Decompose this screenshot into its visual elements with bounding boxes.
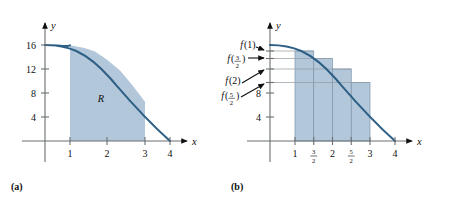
callout-f-2: f (2): [225, 70, 264, 87]
x-tick-label: 1: [68, 148, 73, 159]
riemann-rect: [295, 51, 314, 141]
x-axis-label-a: x: [191, 136, 197, 147]
svg-text:(: (: [225, 90, 229, 102]
y-tick-label: 8: [31, 88, 36, 99]
x-tick-label: 2: [105, 148, 110, 159]
callout-f-1: f (1): [240, 39, 264, 51]
panel-caption-a: (a): [11, 181, 23, 193]
panel-a: 16 12 8 4 1 2 3 4 x y R (a): [11, 20, 197, 193]
textbook-figure: 16 12 8 4 1 2 3 4 x y R (a): [0, 0, 460, 202]
y-tick-label: 16: [26, 40, 36, 51]
callout-f-3-2: f ( 3 2 ): [227, 53, 264, 69]
svg-text:3: 3: [312, 148, 316, 155]
svg-text:): ): [242, 53, 245, 65]
x-axis-label-b: x: [416, 136, 422, 147]
x-tick-label-frac-3-2: 3 2: [310, 148, 317, 164]
figure-svg: 16 12 8 4 1 2 3 4 x y R (a): [0, 0, 460, 202]
svg-text:5: 5: [230, 91, 234, 98]
y-axis-label-a: y: [50, 20, 56, 31]
x-tick-label: 4: [393, 148, 398, 159]
y-tick-label: 4: [31, 112, 36, 123]
y-tick-label: 8: [256, 88, 261, 99]
region-label-R: R: [97, 93, 105, 104]
svg-text:5: 5: [350, 148, 354, 155]
region-R-fill: [70, 45, 145, 141]
y-tick-label: 4: [256, 112, 261, 123]
panel-caption-b: (b): [231, 181, 243, 193]
x-tick-label: 4: [168, 148, 173, 159]
svg-text:2: 2: [350, 157, 353, 164]
svg-text:2: 2: [236, 62, 239, 69]
svg-text:3: 3: [236, 54, 240, 61]
y-axis-label-b: y: [275, 20, 281, 31]
x-tick-label-frac-5-2: 5 2: [348, 148, 355, 164]
x-tick-label: 3: [143, 148, 148, 159]
svg-text:2: 2: [230, 99, 233, 106]
svg-text:(2): (2): [229, 75, 241, 87]
x-tick-label: 3: [368, 148, 373, 159]
x-tick-label: 1: [293, 148, 298, 159]
panel-b: 8 4 1 3 2 2 5: [221, 20, 422, 193]
svg-text:): ): [236, 90, 239, 102]
y-tick-label: 12: [26, 64, 36, 75]
svg-text:(: (: [231, 53, 235, 65]
riemann-rect: [351, 83, 370, 142]
svg-text:(1): (1): [244, 39, 256, 51]
x-tick-label: 2: [330, 148, 335, 159]
svg-text:2: 2: [312, 157, 315, 164]
